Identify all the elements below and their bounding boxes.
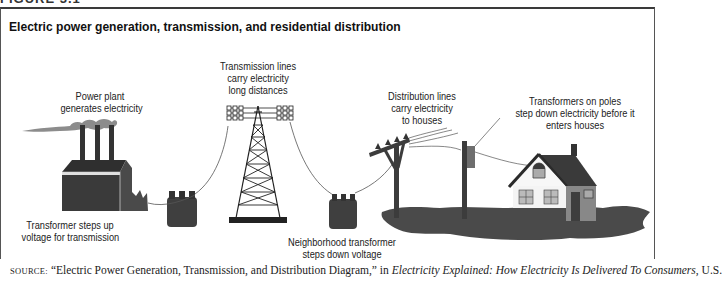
label-line: enters houses — [509, 119, 641, 131]
distribution-lines-icon — [409, 128, 461, 150]
label-line: to houses — [380, 114, 464, 126]
label-neighborhood-transformer: Neighborhood transformer steps down volt… — [287, 236, 396, 260]
label-line: Power plant — [60, 90, 139, 102]
label-line: step down electricity before it — [509, 107, 641, 119]
label-line: Transformers on poles — [509, 95, 641, 107]
transmission-tower-icon — [228, 106, 290, 223]
source-citation: SOURCE: “Electric Power Generation, Tran… — [10, 264, 722, 276]
label-line: Transformer steps up — [22, 219, 119, 231]
source-suffix: , U.S. — [696, 264, 722, 276]
source-quote: “Electric Power Generation, Transmission… — [48, 264, 392, 276]
label-transmission-lines: Transmission lines carry electricity lon… — [216, 60, 300, 96]
label-line: generates electricity — [60, 102, 139, 114]
label-pole-transformers: Transformers on poles step down electric… — [509, 95, 641, 131]
distribution-pole-icon — [369, 133, 410, 218]
label-line: voltage for transmission — [22, 231, 119, 243]
label-line: carry electricity — [380, 102, 464, 114]
label-line: Neighborhood transformer — [287, 236, 396, 248]
callout-line — [475, 118, 500, 146]
label-power-plant: Power plant generates electricity — [60, 90, 139, 114]
smoke-icon — [22, 119, 117, 132]
neighborhood-transformer-icon — [329, 194, 357, 229]
label-line: Distribution lines — [380, 90, 464, 102]
label-line: long distances — [216, 84, 300, 96]
label-line: carry electricity — [216, 72, 300, 84]
power-plant-icon — [62, 125, 148, 211]
label-step-up-transformer: Transformer steps up voltage for transmi… — [22, 219, 119, 243]
source-work-title: Electricity Explained: How Electricity I… — [392, 264, 696, 276]
label-distribution-lines: Distribution lines carry electricity to … — [380, 90, 464, 126]
label-line: Transmission lines — [216, 60, 300, 72]
source-prefix: SOURCE: — [10, 266, 48, 276]
label-line: steps down voltage — [287, 248, 396, 260]
